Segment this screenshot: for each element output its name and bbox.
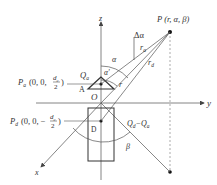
qd-minus-qa-label: Qd−Qa bbox=[127, 119, 150, 129]
alpha-label: α bbox=[112, 55, 117, 64]
svg-text:2: 2 bbox=[54, 83, 58, 91]
beta-arc bbox=[73, 128, 130, 142]
svg-text:dc: dc bbox=[50, 113, 56, 122]
point-p-label: P (r, α, β) bbox=[156, 14, 190, 24]
svg-text:Pd: Pd bbox=[9, 116, 18, 127]
dipole-diagram: z y x O A D P (r, α, β) Δα α α' β r ra r… bbox=[0, 0, 217, 185]
charge-d-label: D bbox=[91, 125, 97, 134]
point-pa-label: Pa (0, 0, dc 2 ) bbox=[17, 74, 64, 91]
svg-text:dc: dc bbox=[53, 74, 59, 83]
beta-label: β bbox=[125, 142, 130, 151]
charge-a-label: A bbox=[79, 85, 85, 94]
point-pd-label: Pd (0, 0, − dc 2 ) bbox=[9, 113, 61, 130]
svg-text:(0, 0, −: (0, 0, − bbox=[21, 116, 46, 126]
alpha-prime-label: α' bbox=[104, 68, 110, 77]
svg-text:): ) bbox=[58, 116, 61, 126]
z-axis-label: z bbox=[98, 14, 103, 23]
y-axis-label: y bbox=[206, 98, 211, 108]
svg-text:Pa: Pa bbox=[17, 77, 26, 88]
svg-text:): ) bbox=[61, 77, 64, 87]
delta-alpha-label: Δα bbox=[134, 30, 144, 40]
svg-text:(0, 0,: (0, 0, bbox=[29, 77, 47, 87]
origin-label: O bbox=[91, 92, 98, 102]
ra-label: ra bbox=[140, 43, 146, 53]
svg-text:2: 2 bbox=[51, 122, 55, 130]
x-axis-label: x bbox=[34, 168, 39, 177]
qa-label: Qa bbox=[80, 70, 89, 81]
rd-label: rd bbox=[148, 58, 154, 68]
projection-line bbox=[101, 103, 170, 172]
